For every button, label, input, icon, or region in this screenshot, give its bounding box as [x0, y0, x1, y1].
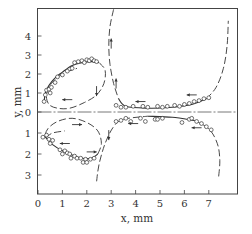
data-point-marker	[73, 61, 77, 65]
arrowhead-icon	[135, 100, 138, 103]
trajectory-chart: 0123456743210123 x, mm y, mm	[0, 0, 252, 234]
data-point-marker	[79, 156, 83, 160]
y-tick-label: 2	[25, 149, 31, 160]
y-tick-label: 2	[25, 69, 31, 80]
data-point-marker	[51, 138, 55, 142]
data-point-marker	[48, 91, 52, 95]
data-point-marker	[85, 161, 89, 165]
trajectory-dashed	[46, 63, 105, 109]
data-point-marker	[124, 116, 128, 120]
y-tick-label: 3	[25, 170, 31, 181]
x-tick-label: 3	[108, 198, 114, 209]
data-point-marker	[139, 116, 143, 120]
data-point-marker	[143, 120, 147, 124]
data-point-marker	[50, 85, 54, 89]
arrowhead-icon	[62, 98, 65, 101]
x-tick-label: 6	[181, 198, 187, 209]
data-point-marker	[190, 116, 194, 120]
data-point-marker	[180, 121, 184, 125]
data-point-marker	[183, 103, 187, 107]
arrowhead-icon	[79, 123, 82, 126]
data-point-marker	[47, 137, 51, 141]
data-point-markers	[41, 57, 213, 164]
data-point-marker	[202, 97, 206, 101]
data-point-marker	[68, 152, 72, 156]
data-point-marker	[89, 157, 93, 161]
axis-ticks	[38, 36, 209, 194]
x-tick-label: 4	[132, 198, 138, 209]
trajectory-dashed	[194, 120, 220, 177]
data-point-marker	[119, 119, 123, 123]
x-tick-label: 0	[35, 198, 41, 209]
data-point-marker	[207, 96, 211, 100]
direction-arrows	[60, 39, 202, 154]
data-point-marker	[146, 105, 150, 109]
y-tick-label: 3	[25, 50, 31, 61]
y-tick-label: 1	[25, 128, 31, 139]
data-point-marker	[70, 66, 74, 70]
trajectory-dashed	[97, 116, 148, 181]
data-point-marker	[204, 125, 208, 129]
data-point-marker	[209, 128, 213, 132]
x-tick-label: 5	[157, 198, 163, 209]
x-tick-label: 1	[59, 198, 65, 209]
arrowhead-icon	[114, 79, 117, 82]
data-point-marker	[41, 135, 45, 139]
arrowhead-icon	[187, 93, 190, 96]
data-point-marker	[165, 104, 169, 108]
data-point-marker	[56, 75, 60, 79]
data-point-marker	[58, 148, 62, 152]
data-point-marker	[114, 120, 118, 124]
data-point-marker	[141, 104, 145, 108]
data-point-marker	[45, 133, 49, 137]
data-point-marker	[200, 122, 204, 126]
data-point-marker	[178, 104, 182, 108]
data-point-marker	[119, 105, 123, 109]
data-point-marker	[197, 99, 201, 103]
data-point-marker	[95, 60, 99, 64]
data-point-marker	[173, 103, 177, 107]
axis-tick-labels: 0123456743210123	[25, 31, 212, 210]
data-point-marker	[192, 100, 196, 104]
data-point-marker	[187, 102, 191, 106]
data-point-marker	[131, 104, 135, 108]
data-point-marker	[161, 105, 165, 109]
trajectory-dashed	[45, 118, 101, 154]
data-point-marker	[42, 100, 46, 104]
x-tick-label: 2	[84, 198, 90, 209]
y-tick-label: 4	[25, 31, 31, 42]
data-point-marker	[156, 117, 160, 121]
data-point-marker	[92, 156, 96, 160]
data-point-marker	[195, 120, 199, 124]
y-tick-label: 0	[25, 107, 31, 118]
data-point-marker	[114, 103, 118, 107]
x-tick-label: 7	[206, 198, 212, 209]
arrowhead-icon	[107, 137, 110, 140]
trajectory-dashed	[109, 9, 119, 98]
arrowhead-icon	[95, 93, 98, 96]
arrowhead-icon	[192, 126, 195, 129]
y-axis-label: y, mm	[11, 86, 23, 118]
y-tick-label: 1	[25, 88, 31, 99]
data-point-marker	[53, 81, 57, 85]
data-point-marker	[75, 156, 79, 160]
data-point-marker	[161, 116, 165, 120]
arrowhead-icon	[60, 142, 63, 145]
trajectory-dashed	[206, 21, 228, 99]
data-point-marker	[69, 156, 73, 160]
data-point-marker	[76, 60, 80, 64]
data-point-marker	[61, 73, 65, 77]
data-point-marker	[124, 105, 128, 109]
data-point-marker	[65, 69, 69, 73]
trajectory-curves	[44, 9, 228, 181]
data-point-marker	[156, 104, 160, 108]
data-point-marker	[43, 93, 47, 97]
arrowhead-icon	[94, 150, 97, 153]
x-axis-label: x, mm	[121, 212, 154, 224]
arrowhead-icon	[110, 39, 113, 42]
